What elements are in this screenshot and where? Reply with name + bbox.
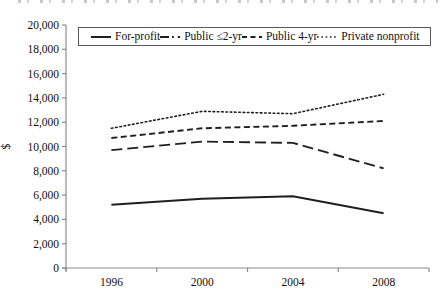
legend-swatch-public-2-yr-line-icon bbox=[160, 33, 180, 41]
legend-label: Public 4-yr bbox=[266, 31, 317, 43]
x-tick-label: 1996 bbox=[100, 276, 123, 288]
y-tick-label: 6,000 bbox=[33, 189, 59, 202]
series-line-for-profit bbox=[111, 196, 383, 213]
legend-label: Private nonprofit bbox=[341, 31, 419, 43]
legend-item-public-2-yr: Public ≤2-yr bbox=[160, 31, 242, 43]
x-tick-label: 2000 bbox=[191, 276, 214, 288]
legend-item-private-nonprofit: Private nonprofit bbox=[317, 31, 419, 43]
x-tick-label: 2008 bbox=[372, 276, 395, 288]
series-line-public-4-yr bbox=[111, 121, 383, 138]
legend-swatch-public-4-yr-line-icon bbox=[242, 33, 262, 41]
y-tick-label: 20,000 bbox=[27, 19, 59, 32]
x-tick-label: 2004 bbox=[281, 276, 304, 288]
y-tick-label: 8,000 bbox=[33, 165, 59, 178]
chart-figure: 02,0004,0006,0008,00010,00012,00014,0001… bbox=[0, 0, 440, 304]
legend-swatch-private-nonprofit-line-icon bbox=[317, 33, 337, 41]
legend: For-profitPublic ≤2-yrPublic 4-yrPrivate… bbox=[78, 27, 431, 46]
y-tick-label: 2,000 bbox=[33, 238, 59, 251]
legend-swatch-for-profit-line-icon bbox=[91, 33, 111, 41]
legend-label: Public ≤2-yr bbox=[184, 31, 242, 43]
legend-item-public-4-yr: Public 4-yr bbox=[242, 31, 317, 43]
legend-item-for-profit: For-profit bbox=[91, 31, 160, 43]
y-tick-label: 0 bbox=[53, 262, 59, 274]
y-tick-label: 16,000 bbox=[27, 68, 59, 81]
y-tick-label: 14,000 bbox=[27, 92, 59, 105]
legend-label: For-profit bbox=[115, 31, 160, 43]
series-line-public-2-yr bbox=[111, 142, 383, 169]
y-tick-label: 18,000 bbox=[27, 43, 59, 56]
y-tick-label: 12,000 bbox=[27, 116, 59, 129]
y-tick-label: 4,000 bbox=[33, 213, 59, 226]
cropped-caption-remnant bbox=[18, 0, 438, 3]
y-axis-title: $ bbox=[0, 143, 12, 149]
y-tick-label: 10,000 bbox=[27, 141, 59, 154]
